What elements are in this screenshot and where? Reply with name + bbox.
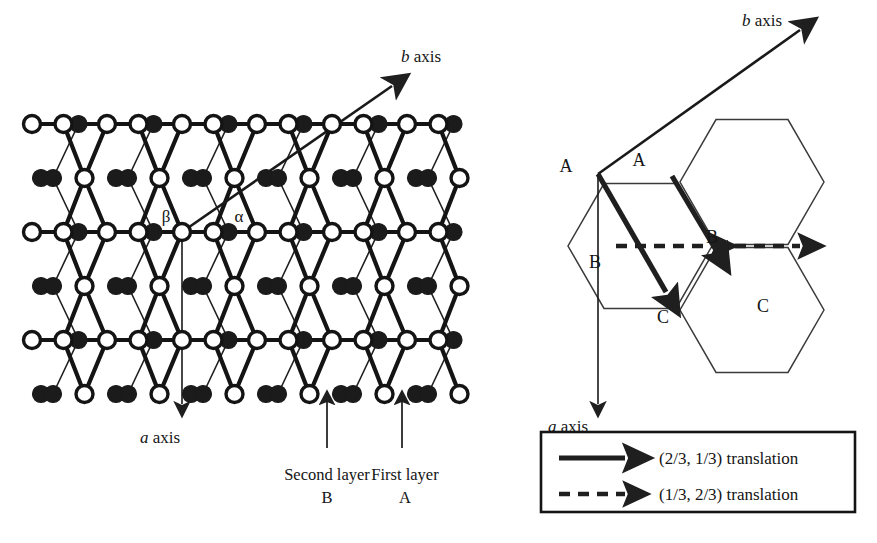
a-axis-label-left: a axis [140, 428, 180, 447]
first-layer-site [205, 224, 222, 241]
first-layer-site [174, 332, 191, 349]
first-layer-site [451, 170, 468, 187]
callout-line1: First layer [371, 465, 439, 484]
first-layer-site [399, 224, 416, 241]
vertex-label-A: A [633, 150, 646, 170]
first-layer-site [301, 386, 318, 403]
first-layer-site [301, 170, 318, 187]
first-layer-site [280, 224, 297, 241]
first-layer-site [174, 224, 191, 241]
first-layer-site [130, 116, 147, 133]
second-layer-site [120, 278, 137, 295]
first-layer-site [151, 170, 168, 187]
b-axis-arrow-right [598, 30, 800, 174]
legend-entries: (2/3, 1/3) translation(1/3, 2/3) transla… [559, 449, 799, 504]
second-layer-site [420, 386, 437, 403]
hexagon [680, 248, 824, 373]
two-thirds-one-third-arrows [598, 174, 716, 292]
first-layer-site [55, 224, 72, 241]
layer-callouts: Second layerBFirst layerA [284, 402, 439, 507]
second-layer-site [420, 170, 437, 187]
second-layer-site [45, 278, 62, 295]
vertex-label-C: C [657, 307, 669, 327]
crystal-stacking-figure: b axis a axis βα Second layerBFirst laye… [0, 0, 877, 543]
second-layer-site [195, 386, 212, 403]
first-layer-site [399, 116, 416, 133]
b-axis-label-left: b axis [401, 47, 441, 66]
first-layer-bond-network [32, 124, 460, 394]
b-axis-arrow-left [182, 86, 392, 232]
first-layer-site [151, 386, 168, 403]
first-layer-site [76, 170, 93, 187]
first-layer-site [430, 332, 447, 349]
first-layer-site [205, 116, 222, 133]
vertex-label-B: B [706, 227, 718, 247]
first-layer-site [376, 386, 393, 403]
first-layer-site [130, 332, 147, 349]
first-layer-site [55, 116, 72, 133]
first-layer-site [130, 224, 147, 241]
first-layer-site [99, 224, 116, 241]
first-layer-site [376, 170, 393, 187]
callout-line2: B [321, 488, 332, 507]
right-stacking-panel: b axis a axis AABBCC [548, 11, 824, 436]
first-layer-site [205, 332, 222, 349]
first-layer-site [399, 332, 416, 349]
vertex-label-B: B [589, 252, 601, 272]
first-layer-site [151, 278, 168, 295]
first-layer-site [376, 278, 393, 295]
second-layer-site [120, 170, 137, 187]
first-layer-site [249, 224, 266, 241]
first-layer-site [24, 224, 41, 241]
left-lattice-panel: b axis a axis βα Second layerBFirst laye… [24, 47, 469, 507]
first-layer-site [355, 116, 372, 133]
first-layer-site [430, 224, 447, 241]
first-layer-site [226, 170, 243, 187]
second-layer-site [195, 278, 212, 295]
second-layer-site [45, 386, 62, 403]
second-layer-site [420, 278, 437, 295]
first-layer-site [226, 278, 243, 295]
vertex-label-A: A [560, 156, 573, 176]
first-layer-site [249, 116, 266, 133]
first-layer-site [174, 116, 191, 133]
callout-line1: Second layer [284, 465, 370, 484]
first-layer-site [76, 386, 93, 403]
b-axis-label-right: b axis [742, 11, 782, 30]
legend-label: (2/3, 1/3) translation [659, 449, 799, 468]
first-layer-site [355, 224, 372, 241]
second-layer-site [120, 386, 137, 403]
first-layer-site [76, 278, 93, 295]
first-layer-site [24, 332, 41, 349]
legend: (2/3, 1/3) translation(1/3, 2/3) transla… [541, 432, 855, 512]
legend-label: (1/3, 2/3) translation [659, 485, 799, 504]
second-layer-site [195, 170, 212, 187]
second-layer-site [345, 278, 362, 295]
vertex-label-C: C [757, 296, 769, 316]
first-layer-site [226, 386, 243, 403]
second-layer-site [270, 386, 287, 403]
first-layer-site [99, 332, 116, 349]
first-layer-site [451, 278, 468, 295]
first-layer-site [451, 386, 468, 403]
first-layer-site [249, 332, 266, 349]
vertex-labels: AABBCC [560, 150, 770, 327]
second-layer-site [345, 170, 362, 187]
first-layer-site [355, 332, 372, 349]
first-layer-site [324, 116, 341, 133]
first-layer-site [280, 116, 297, 133]
second-layer-site [45, 170, 62, 187]
second-layer-site [270, 170, 287, 187]
second-layer-site [345, 386, 362, 403]
solid-translation-arrow [598, 174, 666, 292]
first-layer-site [24, 116, 41, 133]
site-label-open-circle-origin: β [162, 207, 171, 226]
first-layer-site [99, 116, 116, 133]
first-layer-site [324, 224, 341, 241]
first-layer-site [301, 278, 318, 295]
first-layer-site [430, 116, 447, 133]
callout-line2: A [399, 488, 411, 507]
first-layer-site [55, 332, 72, 349]
second-layer-site [270, 278, 287, 295]
site-label-filled-circle: α [235, 207, 244, 226]
